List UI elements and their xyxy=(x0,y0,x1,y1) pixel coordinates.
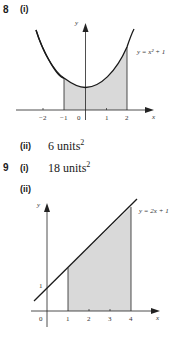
q8-answer-ii: 6 units2 xyxy=(48,138,84,154)
q9-line-label: y = 2x + 1 xyxy=(138,207,169,215)
q9-x-arrow-icon xyxy=(151,308,160,314)
q8-y-label: y xyxy=(74,19,79,27)
q8-tick: 0 xyxy=(77,114,81,122)
q9-tick: 0 xyxy=(39,315,43,323)
q8-part-ii-label: (ii) xyxy=(20,141,31,151)
q9-line xyxy=(34,199,137,301)
q8-tick: −1 xyxy=(60,114,68,122)
q8-x-label: x xyxy=(151,113,156,121)
q9-part-ii-label: (ii) xyxy=(20,184,31,194)
q9-x-label: x xyxy=(155,314,160,322)
q8-curve-label: y = x² + 1 xyxy=(136,48,165,56)
q9-y-label: y xyxy=(36,201,41,209)
q8-tick: −2 xyxy=(39,114,47,122)
q9-tick: 1 xyxy=(66,315,70,323)
q9-answer-i: 18 units2 xyxy=(48,160,90,176)
q9-tick: 2 xyxy=(87,315,91,323)
q9-y-tick: 1 xyxy=(39,282,43,290)
q9-y-arrow-icon xyxy=(44,203,50,212)
q9-shaded-area xyxy=(68,207,131,311)
q8-shaded-area xyxy=(64,47,127,110)
q8-tick: 1 xyxy=(105,114,109,122)
q8-graph: y x y = x² + 1 −2 −1 0 1 2 xyxy=(0,0,183,130)
q9-tick: 3 xyxy=(108,315,112,323)
question-number-9: 9 xyxy=(3,162,9,173)
q9-part-i-label: (i) xyxy=(20,163,29,173)
q8-tick: 2 xyxy=(125,114,129,122)
q9-tick: 4 xyxy=(129,315,133,323)
q8-y-arrow-icon xyxy=(83,23,89,32)
